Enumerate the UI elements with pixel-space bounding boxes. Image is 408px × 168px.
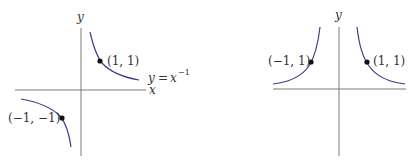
point-marker-1-1	[97, 58, 102, 63]
left-x-axis-label: x	[149, 83, 156, 97]
point-label-1-1: (1, 1)	[107, 54, 139, 68]
equation-equals: =	[158, 71, 168, 85]
right-y-axis-label: y	[334, 8, 342, 22]
equation-label: y = x −1	[147, 68, 190, 85]
point-label-neg1-neg1: (−1, −1)	[8, 111, 60, 125]
equation-lhs: y	[147, 71, 155, 85]
point-label-1-1-right: (1, 1)	[373, 54, 405, 68]
hyperbola-diagrams: y x (1, 1) (−1, −1) y = x −1 y (−1, 1) (…	[0, 0, 408, 168]
right-graph: y (−1, 1) (1, 1)	[268, 8, 406, 156]
equation-base: x	[170, 71, 177, 85]
point-label-neg1-1: (−1, 1)	[268, 54, 310, 68]
left-graph: y x (1, 1) (−1, −1) y = x −1	[8, 10, 190, 156]
point-marker-1-1-right	[364, 59, 369, 64]
equation-exponent: −1	[178, 68, 190, 77]
left-y-axis-label: y	[76, 10, 84, 24]
